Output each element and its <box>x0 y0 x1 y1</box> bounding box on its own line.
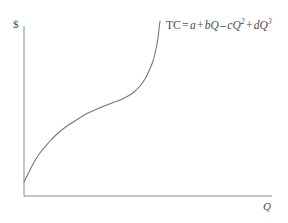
equation-term3-var: Q <box>232 19 240 31</box>
equation-term1-coef: a <box>190 19 196 31</box>
equation-op3: + <box>245 19 254 31</box>
equation-term4-exponent: 3 <box>268 17 272 26</box>
y-axis-label: $ <box>13 19 19 30</box>
total-cost-curve-figure: $ Q TC=a+bQ–cQ2+dQ3 <box>0 0 288 223</box>
equation-term2-var: Q <box>211 19 219 31</box>
equation-annotation: TC=a+bQ–cQ2+dQ3 <box>166 19 272 32</box>
equation-op2: – <box>219 19 227 31</box>
equation-term4-var: Q <box>260 19 268 31</box>
x-axis-label: Q <box>263 201 271 212</box>
equation-op1: + <box>196 19 205 31</box>
plot-area <box>0 0 288 223</box>
equation-equals: = <box>181 19 190 31</box>
total-cost-curve <box>24 21 160 182</box>
equation-lhs: TC <box>166 19 181 31</box>
